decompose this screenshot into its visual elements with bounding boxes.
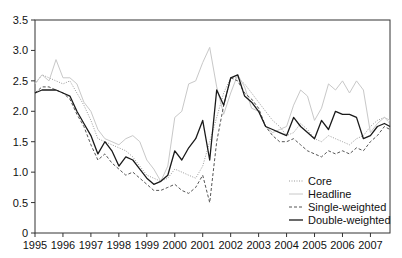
y-tick-label: 1.0 xyxy=(13,166,28,178)
legend-label-core: Core xyxy=(308,175,332,187)
x-tick-label: 2000 xyxy=(163,239,187,251)
series-double-weighted xyxy=(35,75,390,185)
x-tick-label: 2004 xyxy=(274,239,298,251)
x-tick-label: 2005 xyxy=(302,239,326,251)
y-tick-label: 2.5 xyxy=(13,75,28,87)
x-axis: 1995199619971998199920002001200220032004… xyxy=(23,233,383,251)
x-tick-label: 2006 xyxy=(330,239,354,251)
x-tick-label: 2003 xyxy=(246,239,270,251)
y-axis: 00.51.01.52.02.53.03.5 xyxy=(13,14,35,239)
y-tick-label: 1.5 xyxy=(13,136,28,148)
x-tick-label: 1996 xyxy=(51,239,75,251)
x-tick-label: 1995 xyxy=(23,239,47,251)
series-single-weighted xyxy=(35,78,390,203)
legend: Core Headline Single-weighted Double-wei… xyxy=(289,175,391,226)
legend-label-headline: Headline xyxy=(308,188,351,200)
x-tick-label: 1998 xyxy=(107,239,131,251)
x-tick-label: 1999 xyxy=(135,239,159,251)
y-tick-label: 2.0 xyxy=(13,105,28,117)
x-tick-label: 2007 xyxy=(358,239,382,251)
legend-label-single-weighted: Single-weighted xyxy=(308,201,386,213)
line-chart: 00.51.01.52.02.53.03.5 19951996199719981… xyxy=(0,0,402,258)
y-tick-label: 3.5 xyxy=(13,14,28,26)
series-layer xyxy=(35,47,390,202)
x-tick-label: 2001 xyxy=(190,239,214,251)
x-tick-label: 1997 xyxy=(79,239,103,251)
legend-label-double-weighted: Double-weighted xyxy=(308,214,391,226)
x-tick-label: 2002 xyxy=(218,239,242,251)
y-tick-label: 0 xyxy=(22,227,28,239)
y-tick-label: 3.0 xyxy=(13,44,28,56)
y-tick-label: 0.5 xyxy=(13,197,28,209)
